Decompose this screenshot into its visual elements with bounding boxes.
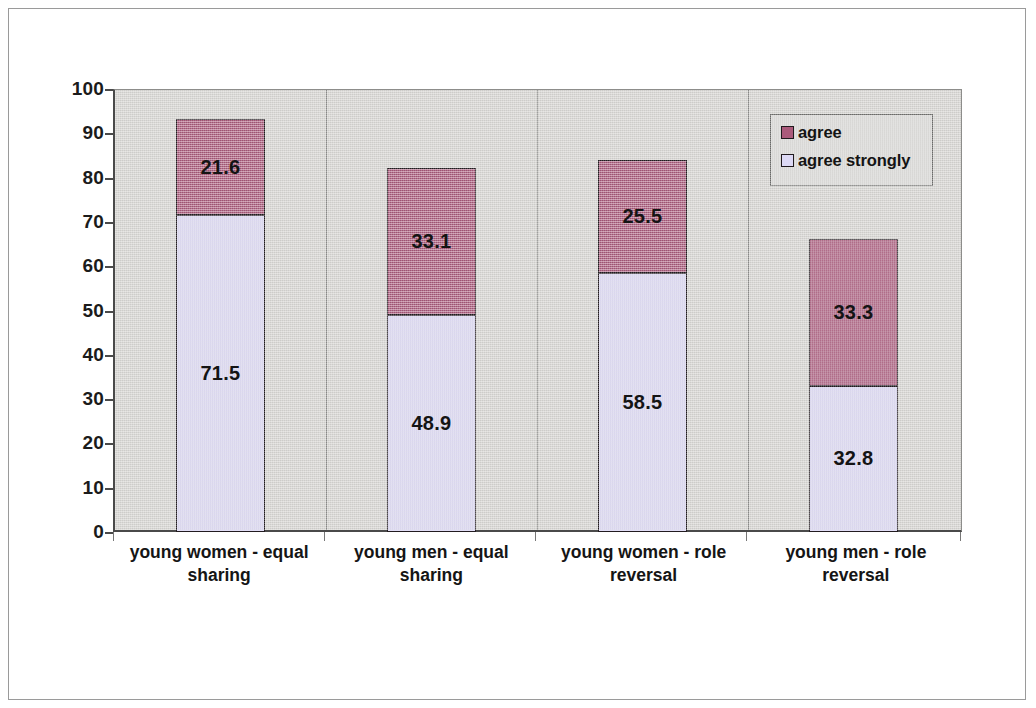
- x-tick-mark: [324, 532, 325, 541]
- x-tick-mark: [746, 532, 747, 541]
- y-tick-label-20: 20: [40, 432, 104, 454]
- y-tick-label-0: 0: [40, 521, 104, 543]
- bar-segment-agree-strongly[interactable]: 58.5: [598, 273, 687, 532]
- legend-item-agree[interactable]: agree: [781, 123, 924, 142]
- stacked-bar-chart: 100 90 80 70 60 50 40 30 20 10 0: [0, 0, 1036, 708]
- bar-value-label-agree: 25.5: [622, 205, 662, 228]
- bar-value-label-agree: 33.1: [411, 230, 451, 253]
- bar-value-label-agree: 33.3: [833, 301, 873, 324]
- category-separator: [326, 90, 327, 530]
- bar-value-label-agree-strongly: 32.8: [833, 447, 873, 470]
- bar-value-label-agree-strongly: 58.5: [622, 391, 662, 414]
- y-tick-label-30: 30: [40, 388, 104, 410]
- bar-value-label-agree-strongly: 48.9: [411, 412, 451, 435]
- chart-legend: agree agree strongly: [770, 114, 933, 186]
- legend-swatch-agree-icon: [781, 126, 794, 139]
- bar-segment-agree[interactable]: 33.1: [387, 168, 476, 315]
- legend-label-agree-strongly: agree strongly: [798, 151, 910, 170]
- bar-group-young-men-equal-sharing[interactable]: 33.1 48.9: [387, 168, 476, 530]
- y-tick-label-70: 70: [40, 211, 104, 233]
- bar-value-label-agree-strongly: 71.5: [200, 362, 240, 385]
- x-tick-mark: [535, 532, 536, 541]
- bar-segment-agree[interactable]: 25.5: [598, 160, 687, 273]
- bar-group-young-women-role-reversal[interactable]: 25.5 58.5: [598, 160, 687, 530]
- y-tick-label-80: 80: [40, 167, 104, 189]
- plot-area: 21.6 71.5 33.1 48.9 25.5: [113, 89, 962, 532]
- y-tick-label-40: 40: [40, 344, 104, 366]
- x-label-young-men-role-reversal: young men - role reversal: [750, 541, 962, 603]
- category-separator: [537, 90, 538, 530]
- y-axis-tick-labels: 100 90 80 70 60 50 40 30 20 10 0: [40, 89, 104, 532]
- bar-segment-agree-strongly[interactable]: 48.9: [387, 315, 476, 532]
- bar-segment-agree-strongly[interactable]: 71.5: [176, 215, 265, 532]
- x-label-young-women-role-reversal: young women - role reversal: [538, 541, 750, 603]
- bar-segment-agree[interactable]: 21.6: [176, 119, 265, 215]
- x-axis-category-labels: young women - equal sharing young men - …: [113, 541, 962, 603]
- bar-value-label-agree: 21.6: [200, 156, 240, 179]
- y-tick-label-90: 90: [40, 122, 104, 144]
- bar-segment-agree-strongly[interactable]: 32.8: [809, 386, 898, 531]
- bar-segment-agree[interactable]: 33.3: [809, 239, 898, 387]
- bar-group-young-women-equal-sharing[interactable]: 21.6 71.5: [176, 119, 265, 530]
- y-tick-label-60: 60: [40, 255, 104, 277]
- category-separator: [748, 90, 749, 530]
- chart-page: 100 90 80 70 60 50 40 30 20 10 0: [0, 0, 1036, 708]
- y-tick-label-10: 10: [40, 477, 104, 499]
- bar-group-young-men-role-reversal[interactable]: 33.3 32.8: [809, 239, 898, 530]
- legend-swatch-agree-strongly-icon: [781, 154, 794, 167]
- x-label-young-men-equal-sharing: young men - equal sharing: [325, 541, 537, 603]
- x-tick-mark: [113, 532, 114, 541]
- x-label-young-women-equal-sharing: young women - equal sharing: [113, 541, 325, 603]
- legend-item-agree-strongly[interactable]: agree strongly: [781, 151, 924, 170]
- y-tick-label-100: 100: [40, 78, 104, 100]
- x-tick-mark: [960, 532, 961, 541]
- y-tick-label-50: 50: [40, 300, 104, 322]
- legend-label-agree: agree: [798, 123, 842, 142]
